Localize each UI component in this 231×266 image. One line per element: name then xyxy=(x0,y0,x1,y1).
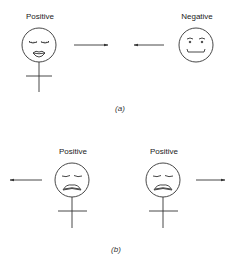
closed-eye-right-icon xyxy=(165,176,173,177)
label-positive-b-right: Positive xyxy=(150,147,178,156)
eyebrow-right-icon xyxy=(199,38,205,39)
positive-female-figure-a xyxy=(22,28,56,92)
label-negative-a: Negative xyxy=(181,12,213,21)
face-circle xyxy=(179,28,213,62)
closed-eye-left-icon xyxy=(62,176,70,177)
panel-b xyxy=(10,163,225,228)
positive-female-figure-b-left xyxy=(55,163,89,228)
face-circle xyxy=(146,163,180,197)
closed-eye-left-icon xyxy=(153,176,161,177)
panel-a xyxy=(22,28,213,92)
closed-eye-right-icon xyxy=(74,176,82,177)
positive-female-figure-b-right xyxy=(146,163,180,228)
label-positive-b-left: Positive xyxy=(59,147,87,156)
caption-a: (a) xyxy=(115,104,125,113)
smirk-mouth-icon xyxy=(187,49,205,52)
eye-left-icon xyxy=(189,41,191,43)
label-positive-a: Positive xyxy=(26,12,54,21)
negative-figure-a xyxy=(179,28,213,62)
eye-right-icon xyxy=(201,41,203,43)
caption-b: (b) xyxy=(111,245,121,254)
face-circle xyxy=(55,163,89,197)
eyebrow-left-icon xyxy=(187,38,193,39)
diagram-canvas xyxy=(0,0,231,266)
